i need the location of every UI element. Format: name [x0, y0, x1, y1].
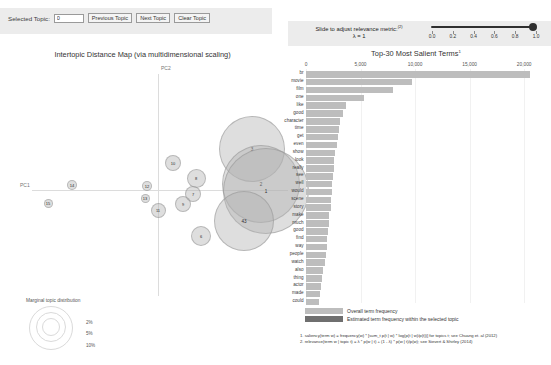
bar-row[interactable]: much [306, 220, 546, 227]
bar-term-label[interactable]: movie [291, 78, 303, 83]
bar-row[interactable]: even [306, 142, 546, 149]
relevance-slider[interactable]: 0.00.20.40.60.81.0 [428, 24, 540, 44]
bar-row[interactable]: really [306, 165, 546, 172]
bar-overall-frequency[interactable] [306, 244, 327, 251]
bar-term-label[interactable]: see [296, 172, 303, 177]
topic-bubble-9[interactable]: 9 [175, 196, 191, 212]
salient-terms-barchart[interactable]: 05,00010,00015,00020,000brmoviefilmoneli… [306, 62, 546, 307]
bar-row[interactable]: character [306, 118, 546, 125]
bar-term-label[interactable]: would [291, 188, 303, 193]
bar-overall-frequency[interactable] [306, 283, 321, 290]
bar-term-label[interactable]: character [284, 118, 303, 123]
bar-row[interactable]: find [306, 236, 546, 243]
bar-overall-frequency[interactable] [306, 299, 319, 306]
bar-overall-frequency[interactable] [306, 71, 530, 78]
bar-term-label[interactable]: good [293, 227, 303, 232]
topic-bubble-14[interactable]: 14 [67, 180, 77, 190]
bar-row[interactable]: scene [306, 197, 546, 204]
clear-topic-button[interactable]: Clear Topic [174, 13, 210, 23]
bar-row[interactable]: well [306, 181, 546, 188]
bar-row[interactable]: film [306, 87, 546, 94]
bar-overall-frequency[interactable] [306, 259, 325, 266]
bar-overall-frequency[interactable] [306, 189, 332, 196]
bar-row[interactable]: see [306, 173, 546, 180]
bar-overall-frequency[interactable] [306, 150, 335, 157]
bar-term-label[interactable]: br [299, 70, 303, 75]
bar-term-label[interactable]: like [297, 102, 304, 107]
previous-topic-button[interactable]: Previous Topic [88, 13, 132, 23]
bar-term-label[interactable]: really [293, 165, 304, 170]
bar-overall-frequency[interactable] [306, 212, 329, 219]
bar-row[interactable]: get [306, 134, 546, 141]
bar-term-label[interactable]: story [294, 204, 304, 209]
bar-row[interactable]: people [306, 252, 546, 259]
bar-row[interactable]: way [306, 244, 546, 251]
bar-row[interactable]: one [306, 95, 546, 102]
bar-term-label[interactable]: even [294, 141, 304, 146]
bar-overall-frequency[interactable] [306, 126, 339, 133]
bar-term-label[interactable]: film [296, 86, 303, 91]
bar-row[interactable]: story [306, 204, 546, 211]
bar-row[interactable]: also [306, 267, 546, 274]
bar-term-label[interactable]: show [293, 149, 304, 154]
topic-bubble-43[interactable]: 43 [214, 191, 274, 251]
bar-term-label[interactable]: also [295, 267, 303, 272]
bar-term-label[interactable]: thing [294, 275, 304, 280]
bar-term-label[interactable]: good [293, 110, 303, 115]
bar-row[interactable]: actor [306, 283, 546, 290]
bar-overall-frequency[interactable] [306, 95, 364, 102]
topic-bubble-13[interactable]: 13 [141, 194, 150, 203]
bar-row[interactable]: good [306, 228, 546, 235]
bar-term-label[interactable]: way [295, 243, 303, 248]
bar-overall-frequency[interactable] [306, 165, 334, 172]
topic-bubble-12[interactable]: 12 [142, 181, 152, 191]
bar-row[interactable]: make [306, 212, 546, 219]
bar-term-label[interactable]: make [292, 212, 303, 217]
bar-overall-frequency[interactable] [306, 275, 322, 282]
selected-topic-input[interactable] [54, 14, 84, 23]
bar-term-label[interactable]: actor [293, 282, 303, 287]
topic-bubble-10[interactable]: 10 [165, 155, 181, 171]
bar-overall-frequency[interactable] [306, 87, 393, 94]
bar-overall-frequency[interactable] [306, 118, 340, 125]
bar-row[interactable]: good [306, 110, 546, 117]
bar-overall-frequency[interactable] [306, 110, 343, 117]
bar-overall-frequency[interactable] [306, 79, 412, 86]
bar-row[interactable]: time [306, 126, 546, 133]
topic-bubble-8[interactable]: 8 [187, 169, 206, 188]
bar-row[interactable]: movie [306, 79, 546, 86]
bar-overall-frequency[interactable] [306, 291, 320, 298]
intertopic-distance-map[interactable]: PC2 PC1 321431087911612131415 [10, 62, 280, 302]
bar-term-label[interactable]: watch [291, 259, 303, 264]
bar-overall-frequency[interactable] [306, 134, 338, 141]
slider-track[interactable] [431, 26, 535, 28]
bar-overall-frequency[interactable] [306, 197, 331, 204]
bar-row[interactable]: like [306, 102, 546, 109]
bar-row[interactable]: thing [306, 275, 546, 282]
bar-overall-frequency[interactable] [306, 173, 333, 180]
bar-overall-frequency[interactable] [306, 220, 329, 227]
bar-overall-frequency[interactable] [306, 252, 326, 259]
bar-row[interactable]: could [306, 299, 546, 306]
bar-term-label[interactable]: people [290, 251, 304, 256]
bar-term-label[interactable]: scene [291, 196, 303, 201]
bar-overall-frequency[interactable] [306, 228, 328, 235]
topic-bubble-6[interactable]: 6 [191, 226, 211, 246]
bar-term-label[interactable]: much [292, 220, 303, 225]
bar-row[interactable]: made [306, 291, 546, 298]
bar-row[interactable]: br [306, 71, 546, 78]
bar-term-label[interactable]: well [296, 180, 304, 185]
bar-overall-frequency[interactable] [306, 181, 332, 188]
bar-overall-frequency[interactable] [306, 157, 334, 164]
bar-row[interactable]: would [306, 189, 546, 196]
bar-term-label[interactable]: look [295, 157, 303, 162]
bar-term-label[interactable]: made [292, 290, 304, 295]
bar-overall-frequency[interactable] [306, 236, 327, 243]
bar-overall-frequency[interactable] [306, 267, 323, 274]
bar-overall-frequency[interactable] [306, 204, 331, 211]
bar-overall-frequency[interactable] [306, 102, 346, 109]
bar-row[interactable]: look [306, 157, 546, 164]
bar-overall-frequency[interactable] [306, 142, 337, 149]
bar-term-label[interactable]: one [296, 94, 304, 99]
bar-row[interactable]: show [306, 150, 546, 157]
